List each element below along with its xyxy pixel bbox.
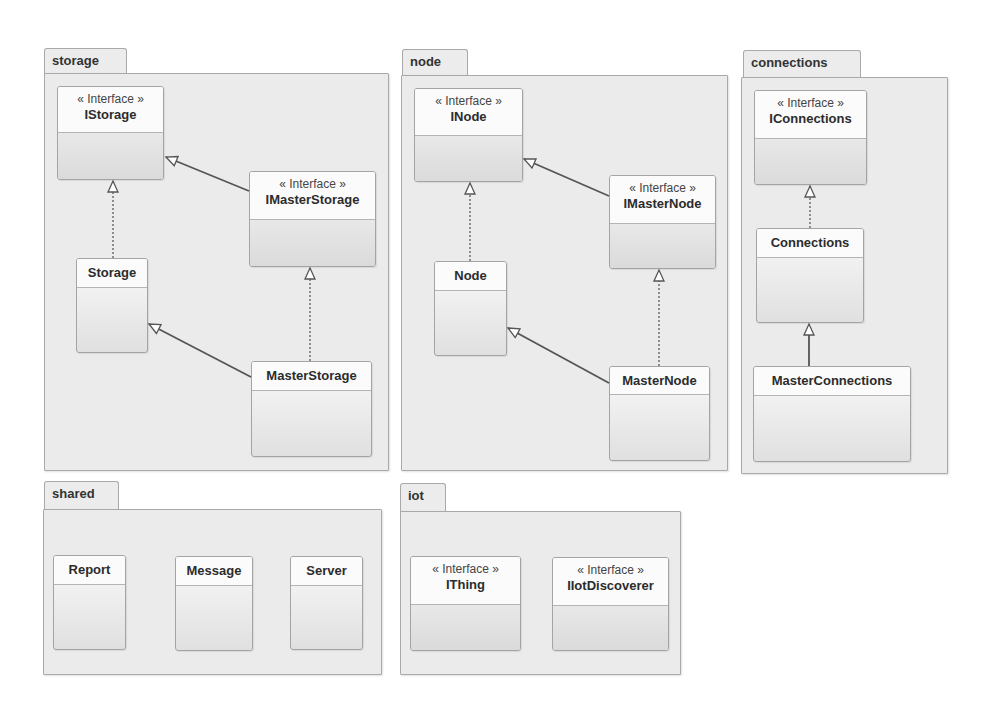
class-report[interactable]: Report	[53, 555, 126, 650]
class-name: Storage	[77, 264, 147, 281]
class-masterstorage[interactable]: MasterStorage	[251, 361, 372, 457]
package-tab-node[interactable]: node	[402, 49, 468, 76]
package-tab-connections[interactable]: connections	[743, 50, 861, 78]
class-name: Connections	[757, 234, 863, 251]
class-imasternode[interactable]: « Interface »IMasterNode	[609, 175, 716, 269]
class-message[interactable]: Message	[175, 556, 253, 651]
class-name: IMasterNode	[610, 195, 715, 212]
class-iconnections[interactable]: « Interface »IConnections	[754, 90, 867, 185]
class-connections[interactable]: Connections	[756, 228, 864, 323]
class-iiotdiscoverer[interactable]: « Interface »IIotDiscoverer	[552, 557, 669, 651]
class-name: MasterStorage	[252, 367, 371, 384]
class-ithing[interactable]: « Interface »IThing	[410, 556, 521, 651]
class-name: INode	[415, 108, 522, 125]
class-name: IIotDiscoverer	[553, 577, 668, 594]
class-name: IThing	[411, 576, 520, 593]
class-name: MasterNode	[610, 372, 709, 389]
stereotype-label: « Interface »	[553, 563, 668, 577]
class-istorage[interactable]: « Interface »IStorage	[57, 86, 164, 180]
stereotype-label: « Interface »	[58, 92, 163, 106]
class-node[interactable]: Node	[434, 261, 507, 356]
class-server[interactable]: Server	[290, 556, 363, 650]
package-tab-storage[interactable]: storage	[44, 48, 127, 74]
class-storage[interactable]: Storage	[76, 258, 148, 353]
stereotype-label: « Interface »	[610, 181, 715, 195]
class-name: IMasterStorage	[250, 191, 375, 208]
stereotype-label: « Interface »	[755, 96, 866, 110]
class-name: Node	[435, 267, 506, 284]
class-name: IStorage	[58, 106, 163, 123]
class-masternode[interactable]: MasterNode	[609, 366, 710, 461]
stereotype-label: « Interface »	[415, 94, 522, 108]
class-masterconnections[interactable]: MasterConnections	[753, 366, 911, 462]
class-name: IConnections	[755, 110, 866, 127]
class-imasterstorage[interactable]: « Interface »IMasterStorage	[249, 171, 376, 267]
class-name: Server	[291, 562, 362, 579]
stereotype-label: « Interface »	[411, 562, 520, 576]
class-name: MasterConnections	[754, 372, 910, 389]
class-name: Report	[54, 561, 125, 578]
package-tab-shared[interactable]: shared	[44, 481, 119, 510]
package-tab-iot[interactable]: iot	[400, 483, 446, 512]
stereotype-label: « Interface »	[250, 177, 375, 191]
class-name: Message	[176, 562, 252, 579]
class-inode[interactable]: « Interface »INode	[414, 88, 523, 182]
